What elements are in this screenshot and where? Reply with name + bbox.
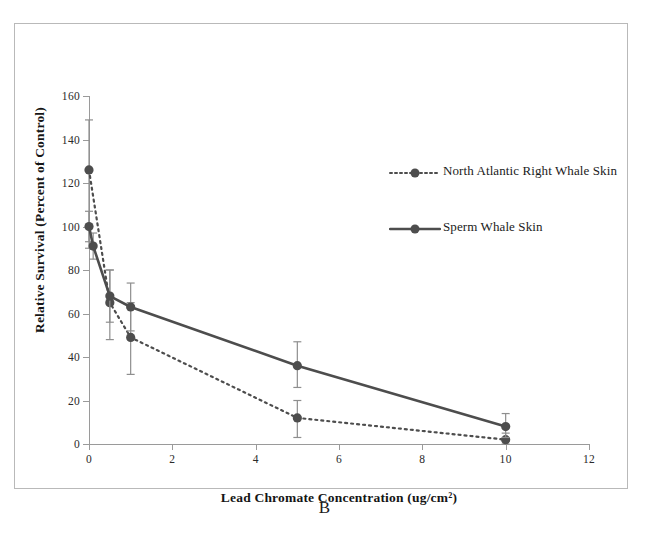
figure-frame: Relative Survival (Percent of Control) 0… — [14, 23, 628, 489]
data-point — [105, 292, 114, 301]
figure-root: Relative Survival (Percent of Control) 0… — [0, 0, 649, 540]
legend-label: Sperm Whale Skin — [443, 219, 543, 235]
y-axis-title: Relative Survival (Percent of Control) — [32, 55, 48, 385]
data-point — [84, 222, 93, 231]
plot-area: 020406080100120140160 024681012 North At… — [89, 96, 589, 467]
legend-item-sperm-whale-skin[interactable]: Sperm Whale Skin — [389, 218, 649, 240]
data-point — [126, 333, 135, 342]
data-point — [84, 165, 93, 174]
y-tick-label: 20 — [68, 395, 80, 407]
data-point — [501, 422, 510, 431]
legend-item-north-atlantic-right-whale-skin[interactable]: North Atlantic Right Whale Skin — [389, 162, 649, 184]
x-tick-mark — [589, 444, 590, 450]
y-tick-label: 80 — [68, 264, 80, 276]
y-tick-label: 160 — [62, 90, 80, 102]
data-point — [126, 302, 135, 311]
legend: North Atlantic Right Whale Skin Sperm Wh… — [389, 162, 649, 274]
data-point — [89, 241, 98, 250]
data-point — [293, 413, 302, 422]
data-series-layer — [89, 96, 589, 467]
legend-marker-dotted-icon — [389, 162, 441, 184]
legend-label: North Atlantic Right Whale Skin — [443, 163, 617, 179]
y-tick-label: 120 — [62, 177, 80, 189]
panel-label: B — [0, 498, 649, 518]
y-tick-label: 100 — [62, 221, 80, 233]
y-tick-label: 140 — [62, 134, 80, 146]
y-tick-label: 0 — [74, 438, 80, 450]
legend-marker-solid-icon — [389, 218, 441, 240]
y-tick-label: 60 — [68, 308, 80, 320]
y-tick-label: 40 — [68, 351, 80, 363]
data-point — [293, 361, 302, 370]
